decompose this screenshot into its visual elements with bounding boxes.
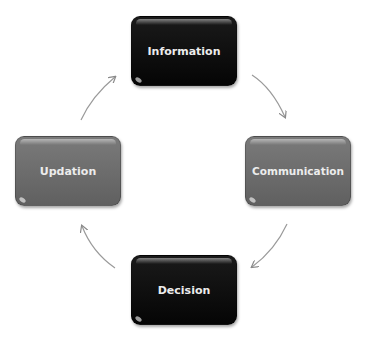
node-updation: Updation	[15, 136, 121, 206]
node-label: Communication	[252, 165, 344, 177]
node-communication: Communication	[245, 136, 351, 206]
node-information: Information	[131, 16, 237, 86]
arrow-updation-to-information	[81, 77, 115, 120]
node-label: Information	[148, 45, 221, 58]
node-decision: Decision	[131, 255, 237, 325]
arrow-decision-to-updation	[82, 226, 115, 268]
arrow-information-to-communication	[252, 75, 285, 117]
arrow-communication-to-decision	[252, 224, 287, 267]
node-label: Decision	[158, 284, 211, 297]
node-label: Updation	[40, 165, 97, 178]
